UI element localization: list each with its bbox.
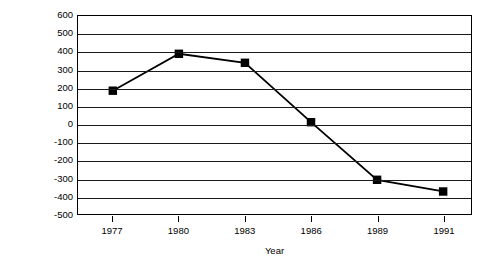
y-axis-tick-label: 0 (31, 119, 73, 129)
series-line (113, 54, 443, 192)
gridline (78, 34, 471, 35)
x-axis-tick-label: 1977 (92, 225, 132, 236)
x-axis-tick-label: 1991 (424, 225, 464, 236)
gridline (78, 107, 471, 108)
data-point-marker (175, 50, 183, 58)
x-axis-title: Year (0, 245, 485, 256)
y-axis-title: Billions of dollars (0, 0, 22, 271)
y-axis-tick-label: -400 (31, 192, 73, 202)
x-axis-tick-mark (178, 216, 179, 222)
y-axis-tick-label: -300 (31, 174, 73, 184)
x-axis-tick-mark (444, 216, 445, 222)
gridline (78, 89, 471, 90)
x-axis-tick-label: 1983 (225, 225, 265, 236)
y-axis-tick-label: 600 (31, 10, 73, 20)
x-axis-tick-mark (112, 216, 113, 222)
plot-area (77, 15, 472, 215)
y-axis-tick-label: 200 (31, 83, 73, 93)
data-point-marker (439, 187, 447, 195)
gridline (78, 198, 471, 199)
x-axis-tick-label: 1986 (291, 225, 331, 236)
gridline (78, 143, 471, 144)
gridline (78, 52, 471, 53)
y-axis-tick-label: 100 (31, 101, 73, 111)
gridline (78, 161, 471, 162)
data-point-marker (241, 59, 249, 67)
line-chart: Billions of dollars 6005004003002001000-… (0, 0, 485, 271)
gridline (78, 180, 471, 181)
data-series-layer (78, 16, 471, 214)
x-axis-title-label: Year (265, 245, 284, 256)
y-axis-tick-label: 300 (31, 65, 73, 75)
y-axis-tick-label: -500 (31, 210, 73, 220)
x-axis-tick-mark (311, 216, 312, 222)
y-axis-tick-labels: 6005004003002001000-100-200-300-400-500 (28, 0, 73, 271)
y-axis-tick-label: -100 (31, 137, 73, 147)
y-axis-tick-label: 400 (31, 46, 73, 56)
gridline (78, 71, 471, 72)
gridline (78, 125, 471, 126)
x-axis-tick-mark (378, 216, 379, 222)
y-axis-tick-label: -200 (31, 155, 73, 165)
x-axis-tick-mark (245, 216, 246, 222)
y-axis-tick-label: 500 (31, 28, 73, 38)
x-axis-tick-label: 1980 (158, 225, 198, 236)
x-axis-tick-label: 1989 (358, 225, 398, 236)
